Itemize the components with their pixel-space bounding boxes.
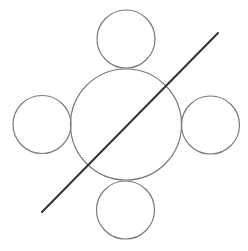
bottom-circle	[97, 181, 155, 239]
right-circle	[182, 96, 240, 154]
diagonal-line	[42, 33, 218, 212]
left-circle	[13, 96, 71, 154]
diagram-canvas	[0, 0, 248, 251]
top-circle	[97, 10, 155, 68]
